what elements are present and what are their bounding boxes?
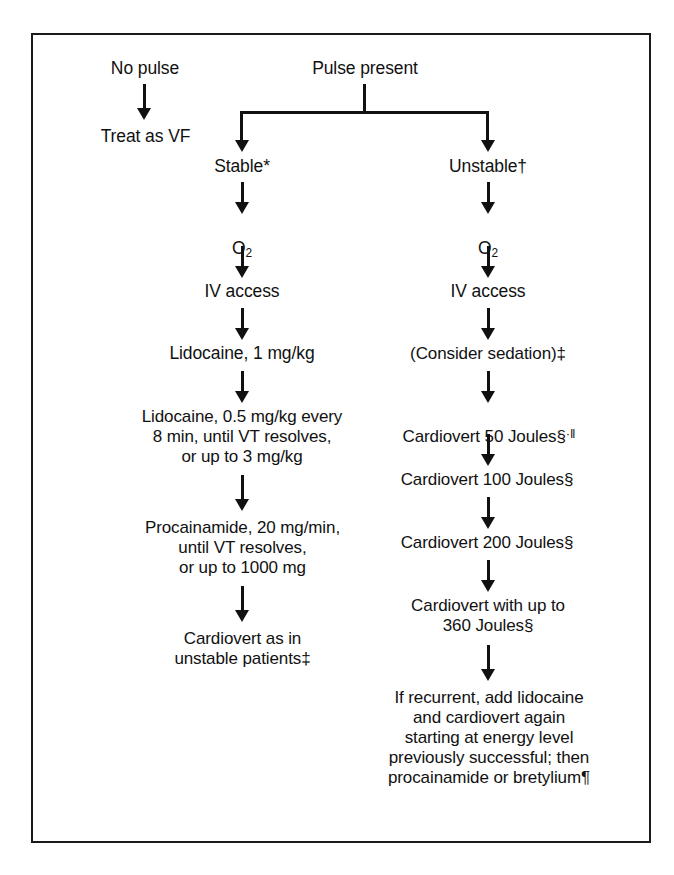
arrowhead-sedation [481, 328, 495, 340]
connector-stable-iv-to-lido1 [241, 308, 244, 330]
connector-unstable-to-o2 [487, 182, 490, 204]
connector-sedation-to-cv50 [487, 371, 490, 393]
connector-lido2-to-procainamide [241, 475, 244, 501]
arrowhead-cv200 [481, 517, 495, 529]
node-cardiovert-360: Cardiovert with up to 360 Joules§ [372, 596, 604, 636]
arrowhead-stable [235, 140, 249, 152]
node-no-pulse: No pulse [60, 58, 230, 78]
node-unstable: Unstable† [408, 156, 568, 176]
cardiovert-50-footnote-marks: ·‖ [566, 426, 576, 441]
node-lidocaine-repeat: Lidocaine, 0.5 mg/kg every 8 min, until … [117, 407, 367, 467]
arrowhead-cv360 [481, 580, 495, 592]
node-stable-iv-access: IV access [162, 281, 322, 301]
connector-no-pulse-stem [143, 84, 146, 110]
connector-cv50-to-cv100 [487, 434, 490, 456]
arrowhead-procainamide [235, 499, 249, 511]
arrowhead-stable-o2 [235, 202, 249, 214]
node-lidocaine-bolus: Lidocaine, 1 mg/kg [142, 343, 342, 363]
arrowhead-stable-iv [235, 266, 249, 278]
node-cardiovert-100: Cardiovert 100 Joules§ [368, 470, 606, 490]
arrowhead-lido2 [235, 391, 249, 403]
node-procainamide: Procainamide, 20 mg/min, until VT resolv… [115, 518, 370, 578]
node-stable: Stable* [162, 156, 322, 176]
oxygen-subscript: 2 [245, 247, 252, 261]
arrowhead-unstable-iv [481, 266, 495, 278]
connector-cv200-to-cv360 [487, 560, 490, 582]
connector-split-left [240, 111, 243, 142]
node-treat-as-vf: Treat as VF [58, 126, 233, 146]
node-consider-sedation: (Consider sedation)‡ [372, 344, 604, 364]
arrowhead-unstable [481, 140, 495, 152]
figure-canvas: No pulse Treat as VF Pulse present Stabl… [0, 0, 674, 875]
arrowhead-no-pulse [137, 108, 151, 120]
connector-lido1-to-lido2 [241, 371, 244, 393]
arrowhead-cv50 [481, 391, 495, 403]
arrowhead-stable-cardiovert [235, 610, 249, 622]
arrowhead-recurrent [481, 669, 495, 681]
connector-unstable-iv-to-sedation [487, 308, 490, 330]
connector-split-bar [240, 111, 489, 114]
node-pulse-present: Pulse present [275, 58, 455, 78]
node-if-recurrent: If recurrent, add lidocaine and cardiove… [358, 688, 620, 787]
connector-cv360-to-recurrent [487, 645, 490, 671]
connector-unstable-o2-to-iv [487, 246, 490, 268]
oxygen-subscript: 2 [491, 247, 498, 261]
connector-procainamide-to-cardiovert [241, 586, 244, 612]
connector-stable-o2-to-iv [241, 246, 244, 268]
arrowhead-stable-lido1 [235, 328, 249, 340]
connector-split-right [486, 111, 489, 142]
connector-cv100-to-cv200 [487, 497, 490, 519]
node-cardiovert-200: Cardiovert 200 Joules§ [368, 533, 606, 553]
arrowhead-cv100 [481, 454, 495, 466]
connector-stable-to-o2 [241, 182, 244, 204]
node-unstable-iv-access: IV access [408, 281, 568, 301]
connector-pulse-stem [363, 84, 366, 113]
cardiovert-50-label: Cardiovert 50 Joules§ [403, 427, 566, 446]
node-stable-cardiovert: Cardiovert as in unstable patients‡ [130, 629, 355, 669]
arrowhead-unstable-o2 [481, 202, 495, 214]
